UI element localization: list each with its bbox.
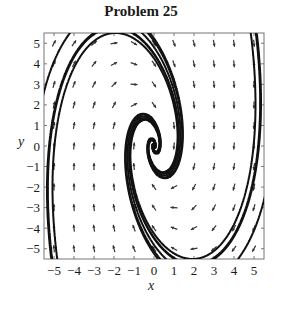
y-tick-label: −4 xyxy=(26,221,40,236)
x-tick-label: −4 xyxy=(67,263,81,278)
phase-portrait-plot: −5−4−3−2−1012345543210−1−2−3−4−5 xyxy=(0,0,282,313)
x-tick-label: −3 xyxy=(87,263,101,278)
y-tick-label: 2 xyxy=(34,97,41,112)
x-tick-label: 2 xyxy=(191,263,198,278)
solution-curve xyxy=(43,32,182,177)
y-tick-label: −2 xyxy=(26,180,40,195)
y-tick-label: 3 xyxy=(34,77,41,92)
y-tick-label: 0 xyxy=(34,139,41,154)
axis-ticks: −5−4−3−2−1012345543210−1−2−3−4−5 xyxy=(26,33,264,278)
x-tick-label: −2 xyxy=(107,263,121,278)
x-tick-label: 1 xyxy=(171,263,178,278)
y-tick-label: −3 xyxy=(26,200,40,215)
y-tick-label: 1 xyxy=(34,118,41,133)
solution-curve xyxy=(126,115,265,260)
x-tick-label: 3 xyxy=(211,263,218,278)
x-tick-label: 4 xyxy=(231,263,238,278)
y-tick-label: −5 xyxy=(26,241,40,256)
x-tick-label: −1 xyxy=(127,263,141,278)
y-tick-label: 4 xyxy=(34,56,41,71)
y-tick-label: 5 xyxy=(34,36,41,51)
x-tick-label: 0 xyxy=(151,263,158,278)
x-tick-label: −5 xyxy=(47,263,61,278)
x-tick-label: 5 xyxy=(251,263,258,278)
solution-curves xyxy=(43,32,265,260)
y-tick-label: −1 xyxy=(26,159,40,174)
